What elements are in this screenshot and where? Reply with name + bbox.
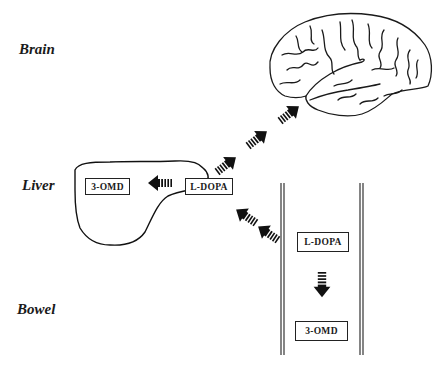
liver-3omd-box: 3-OMD (85, 178, 130, 195)
liver-outline (75, 161, 208, 245)
arrow-liver-to-brain (212, 100, 304, 178)
bowel-ldopa-box: L-DOPA (297, 232, 349, 252)
arrow-bowel-to-liver (232, 203, 283, 247)
label-liver: Liver (22, 177, 54, 194)
brain-illustration (270, 14, 432, 116)
label-bowel: Bowel (17, 301, 55, 318)
arrow-liver-conversion (148, 175, 172, 191)
arrow-bowel-conversion (314, 272, 331, 297)
liver-ldopa-box: L-DOPA (185, 178, 233, 195)
label-brain: Brain (19, 41, 55, 58)
bowel-3omd-box: 3-OMD (295, 321, 348, 341)
